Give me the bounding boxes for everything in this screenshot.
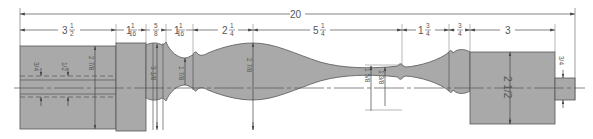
segment-label-3: 5 8 xyxy=(153,22,159,37)
segment-label-1: 3 1 2 xyxy=(62,22,75,37)
svg-text:4: 4 xyxy=(230,30,234,37)
svg-text:5: 5 xyxy=(313,25,319,36)
svg-text:5: 5 xyxy=(154,22,158,29)
svg-text:1: 1 xyxy=(179,22,183,29)
turned-profile xyxy=(146,42,470,101)
segment-label-2: 1 1 16 xyxy=(126,22,137,37)
svg-text:1: 1 xyxy=(131,22,135,29)
segment-label-4: 1 1 16 xyxy=(174,22,185,37)
spindle-drawing: 20 3 1 xyxy=(0,0,593,139)
diameter-label-mortise-offset: 3/4 xyxy=(33,62,40,71)
svg-text:16: 16 xyxy=(177,30,185,37)
svg-text:1: 1 xyxy=(230,22,234,29)
diameter-label-cove: 1 7/8 xyxy=(178,66,185,81)
svg-text:16: 16 xyxy=(129,30,137,37)
svg-text:4: 4 xyxy=(321,30,325,37)
diameter-label-vase: 2 7/8 xyxy=(246,58,253,73)
diameter-label-neck-inner: 1 3/8 xyxy=(378,70,385,85)
diameter-label-foot: 2 1/2 xyxy=(502,76,513,99)
diameter-label-tenon: 3/4 xyxy=(558,56,565,65)
svg-text:3: 3 xyxy=(458,22,462,29)
segment-label-7: 1 3 4 xyxy=(418,22,431,37)
overall-length-label: 20 xyxy=(290,9,302,20)
svg-text:2: 2 xyxy=(70,30,74,37)
svg-text:8: 8 xyxy=(154,30,158,37)
square-top-block xyxy=(20,46,116,129)
step-block xyxy=(116,43,146,131)
svg-text:3: 3 xyxy=(505,25,511,36)
svg-text:3: 3 xyxy=(426,22,430,29)
segment-label-9: 3 xyxy=(505,25,511,36)
segment-label-5: 2 1 4 xyxy=(222,22,235,37)
spindle-body xyxy=(20,42,575,131)
diameter-label-neck-outer: 1 5/8 xyxy=(364,68,371,83)
svg-text:4: 4 xyxy=(458,30,462,37)
segment-label-8: 3 4 xyxy=(457,22,463,37)
segment-labels: 3 1 2 1 1 16 5 8 1 1 16 2 1 4 5 xyxy=(62,22,511,37)
svg-text:1: 1 xyxy=(321,22,325,29)
diameter-label-mortise-width: 1/2 xyxy=(61,62,68,71)
tenon xyxy=(555,78,575,100)
svg-text:4: 4 xyxy=(426,30,430,37)
svg-text:3: 3 xyxy=(62,25,68,36)
segment-label-6: 5 1 4 xyxy=(313,22,326,37)
diameter-label-square: 2 7/8 xyxy=(88,56,95,71)
svg-text:2: 2 xyxy=(222,25,228,36)
diameter-label-bead: 3 1/8 xyxy=(150,66,157,81)
svg-text:1: 1 xyxy=(418,25,424,36)
svg-text:1: 1 xyxy=(70,22,74,29)
